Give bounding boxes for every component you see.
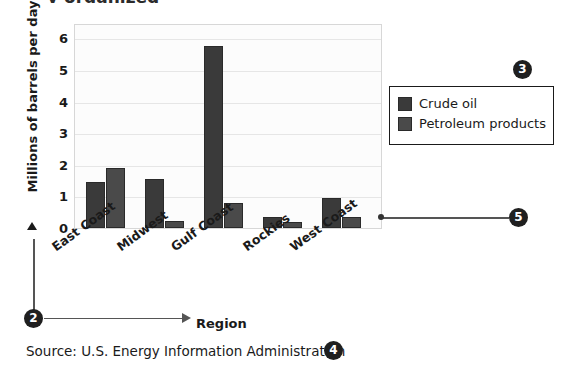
chart-legend: Crude oil Petroleum products bbox=[389, 86, 554, 145]
y-tick-3: 3 bbox=[46, 127, 68, 140]
bar-group-gulf-coast bbox=[204, 24, 248, 228]
callout-2-arrow-icon bbox=[182, 313, 191, 323]
callout-badge-3: 3 bbox=[513, 60, 532, 79]
y-tick-4: 4 bbox=[46, 96, 68, 109]
bar-petroleum-west-coast bbox=[342, 217, 361, 228]
legend-label-crude-oil: Crude oil bbox=[419, 96, 477, 111]
bar-group-east-coast bbox=[86, 24, 130, 228]
bar-crude-gulf-coast bbox=[204, 46, 223, 228]
callout-badge-4: 4 bbox=[324, 341, 343, 360]
y-axis-ticks: 6 5 4 3 2 1 0 bbox=[40, 0, 68, 369]
callout-2-leader-vertical bbox=[33, 239, 35, 311]
bar-group-rockies bbox=[263, 24, 307, 228]
callout-5-leader-horizontal bbox=[381, 217, 509, 219]
bar-group-midwest bbox=[145, 24, 189, 228]
page-title-remnant: y organized bbox=[47, 0, 247, 3]
legend-label-petroleum-products: Petroleum products bbox=[419, 116, 546, 131]
legend-swatch-crude-oil bbox=[398, 97, 412, 111]
legend-item-petroleum-products: Petroleum products bbox=[398, 116, 545, 131]
callout-5-anchor-dot-icon bbox=[378, 214, 384, 220]
callout-badge-2: 2 bbox=[24, 309, 43, 328]
callout-badge-5: 5 bbox=[509, 208, 528, 227]
chart-bars bbox=[74, 24, 382, 228]
legend-item-crude-oil: Crude oil bbox=[398, 96, 545, 111]
bar-petroleum-midwest bbox=[165, 221, 184, 228]
y-tick-1: 1 bbox=[46, 190, 68, 203]
x-axis-title: Region bbox=[196, 316, 247, 331]
source-note: Source: U.S. Energy Information Administ… bbox=[26, 343, 345, 359]
y-tick-2: 2 bbox=[46, 159, 68, 172]
y-axis-arrow-icon bbox=[27, 222, 37, 230]
y-tick-5: 5 bbox=[46, 64, 68, 77]
legend-swatch-petroleum-products bbox=[398, 117, 412, 131]
bar-group-west-coast bbox=[322, 24, 366, 228]
y-axis-title: Millions of barrels per day bbox=[25, 3, 40, 193]
y-tick-6: 6 bbox=[46, 32, 68, 45]
callout-2-leader-horizontal bbox=[44, 318, 184, 320]
